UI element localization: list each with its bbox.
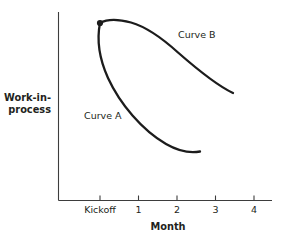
y-axis-label-line1: Work-in- [4, 92, 51, 103]
curve-a-label: Curve A [84, 110, 122, 121]
x-axis-title: Month [150, 221, 185, 232]
curve-a-path [99, 23, 200, 152]
curve-b-label: Curve B [178, 29, 216, 40]
y-axis-label-line2: process [8, 104, 51, 115]
x-tick-label-1: 1 [135, 204, 141, 215]
x-tick-label-3: 3 [212, 204, 218, 215]
x-tick-label-2: 2 [174, 204, 180, 215]
start-point-dot [97, 20, 103, 26]
x-tick-label-4: 4 [251, 204, 257, 215]
x-axis-ticks [100, 196, 254, 201]
figure-container: Work-in- process Kickoff 1 2 3 4 Month C… [0, 0, 281, 243]
chart-canvas: Work-in- process Kickoff 1 2 3 4 Month C… [0, 0, 281, 243]
x-tick-label-kickoff: Kickoff [84, 204, 116, 215]
